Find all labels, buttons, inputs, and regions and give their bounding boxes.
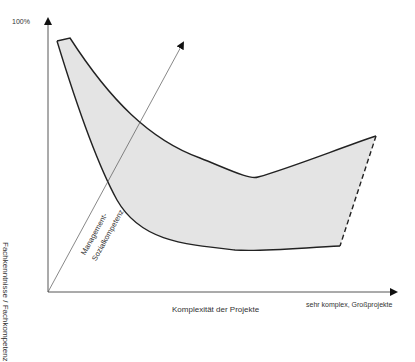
x-axis-label: Komplexität der Projekte (172, 305, 259, 314)
y-axis-top-label: 100% (12, 18, 30, 25)
x-axis-end-label: sehr komplex, Großprojekte (306, 301, 392, 308)
y-axis-label: Fachkenntnisse / Fachkompetenz (1, 242, 10, 362)
